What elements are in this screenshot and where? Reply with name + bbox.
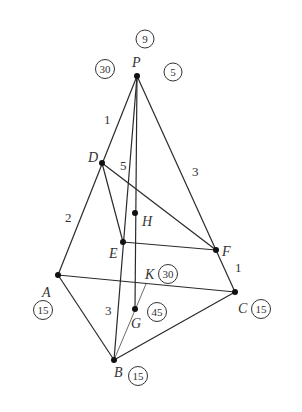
- label-H: H: [141, 214, 153, 229]
- point-F: [213, 247, 219, 253]
- svg-text:15: 15: [133, 370, 145, 382]
- edge-label-DA: 2: [65, 210, 72, 225]
- edge-label-EB: 3: [105, 303, 112, 318]
- svg-text:5: 5: [170, 66, 176, 78]
- point-C: [232, 289, 238, 295]
- label-K: K: [144, 267, 155, 282]
- label-E: E: [108, 246, 118, 261]
- point-G: [132, 306, 138, 312]
- point-P: [134, 73, 140, 79]
- label-D: D: [87, 150, 98, 165]
- edge-EF: [123, 242, 216, 250]
- circled-value-P-left: 30: [96, 60, 115, 79]
- circled-value-A: 15: [34, 301, 53, 320]
- edge-label-FC: 1: [235, 260, 242, 275]
- circled-value-G: 45: [148, 303, 167, 322]
- svg-text:15: 15: [256, 303, 268, 315]
- point-D: [99, 160, 105, 166]
- edge-DE: [102, 163, 123, 242]
- edge-PC: [137, 76, 235, 292]
- svg-text:9: 9: [142, 33, 148, 45]
- point-A: [55, 272, 61, 278]
- circled-value-P-top: 9: [136, 30, 154, 48]
- svg-text:45: 45: [152, 306, 164, 318]
- edge-label-PF: 3: [192, 164, 199, 179]
- point-H: [132, 210, 138, 216]
- label-C: C: [238, 301, 248, 316]
- label-P: P: [131, 55, 141, 70]
- point-B: [111, 357, 117, 363]
- edge-DF: [102, 163, 216, 250]
- edge-PA: [58, 76, 137, 275]
- circled-value-K: 30: [159, 265, 178, 284]
- edge-PG: [135, 76, 137, 309]
- svg-text:30: 30: [100, 63, 112, 75]
- tetrahedron-diagram: P D H E F A K C G B 1 2 5 3 1 3 9 30 5 1…: [0, 0, 302, 412]
- label-F: F: [221, 244, 231, 259]
- label-G: G: [131, 316, 141, 331]
- circled-value-C: 15: [252, 300, 271, 319]
- edge-label-PD: 1: [104, 112, 111, 127]
- edge-label-DE: 5: [120, 158, 127, 173]
- circled-value-B: 15: [129, 367, 148, 386]
- label-A: A: [41, 285, 51, 300]
- label-B: B: [114, 365, 123, 380]
- svg-text:15: 15: [38, 304, 50, 316]
- circled-value-P-right: 5: [164, 63, 182, 81]
- point-E: [120, 239, 126, 245]
- svg-text:30: 30: [163, 268, 175, 280]
